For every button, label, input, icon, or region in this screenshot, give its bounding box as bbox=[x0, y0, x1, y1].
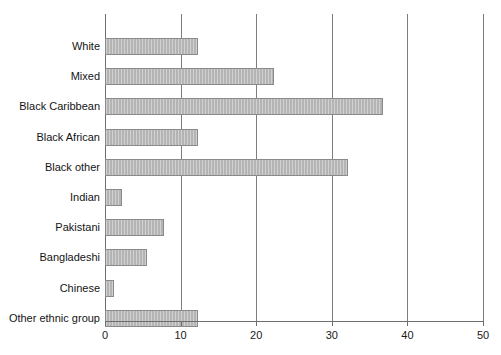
category-label: Chinese bbox=[0, 282, 100, 295]
x-tick-0 bbox=[105, 321, 106, 326]
category-label: Pakistani bbox=[0, 221, 100, 234]
bar bbox=[105, 280, 114, 297]
category-label: Other ethnic group bbox=[0, 312, 100, 325]
bar bbox=[105, 68, 274, 85]
bar-row bbox=[105, 68, 483, 85]
bar-row bbox=[105, 280, 483, 297]
category-label: Black African bbox=[0, 131, 100, 144]
bar bbox=[105, 310, 198, 327]
bar bbox=[105, 129, 198, 146]
bar-row bbox=[105, 189, 483, 206]
x-axis-line bbox=[105, 321, 484, 322]
x-tick-30 bbox=[332, 321, 333, 326]
x-tick-label: 40 bbox=[401, 329, 413, 341]
bar-row bbox=[105, 129, 483, 146]
x-tick-40 bbox=[407, 321, 408, 326]
bar-row bbox=[105, 219, 483, 236]
bar-row bbox=[105, 249, 483, 266]
bar-row bbox=[105, 310, 483, 327]
x-tick-label: 10 bbox=[174, 329, 186, 341]
category-label: Black Caribbean bbox=[0, 100, 100, 113]
x-tick-label: 30 bbox=[326, 329, 338, 341]
x-tick-50 bbox=[483, 321, 484, 326]
bar-chart: WhiteMixedBlack CaribbeanBlack AfricanBl… bbox=[0, 0, 501, 355]
plot-area bbox=[105, 14, 483, 321]
bar-row bbox=[105, 98, 483, 115]
category-label-column: WhiteMixedBlack CaribbeanBlack AfricanBl… bbox=[0, 0, 100, 355]
bar-row bbox=[105, 159, 483, 176]
gridline-50 bbox=[483, 14, 484, 321]
bar bbox=[105, 249, 147, 266]
x-tick-20 bbox=[256, 321, 257, 326]
bar bbox=[105, 189, 122, 206]
category-label: Indian bbox=[0, 191, 100, 204]
category-label: White bbox=[0, 40, 100, 53]
category-label: Black other bbox=[0, 161, 100, 174]
bar bbox=[105, 159, 348, 176]
x-tick-10 bbox=[181, 321, 182, 326]
x-tick-label: 0 bbox=[102, 329, 108, 341]
bar bbox=[105, 38, 198, 55]
bar bbox=[105, 98, 383, 115]
x-tick-label: 20 bbox=[250, 329, 262, 341]
category-label: Mixed bbox=[0, 70, 100, 83]
bar bbox=[105, 219, 164, 236]
category-label: Bangladeshi bbox=[0, 251, 100, 264]
bar-row bbox=[105, 38, 483, 55]
x-tick-label: 50 bbox=[477, 329, 489, 341]
